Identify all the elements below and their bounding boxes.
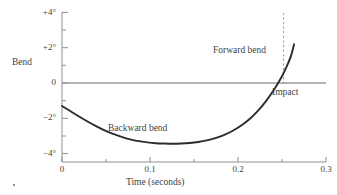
bend-curve [62, 44, 294, 144]
x-axis-ticks [62, 157, 326, 162]
y-tick-label-zero: 0 [22, 78, 56, 87]
annotation-forward-bend: Forward bend [213, 46, 266, 56]
annotation-backward-bend: Backward bend [108, 124, 167, 134]
x-tick-label-0: 0 [47, 165, 77, 174]
x-tick-label-0-3: 0.3 [311, 165, 337, 174]
y-axis-title: Bend [12, 58, 32, 68]
y-tick-label-plus-4: +4° [22, 8, 56, 17]
x-tick-label-0-1: 0.1 [135, 165, 165, 174]
annotation-impact: Impact [272, 88, 298, 98]
y-tick-label-plus-2: +2° [22, 43, 56, 52]
bend-vs-time-chart: +4° +2° 0 −2° −4° 0 0.1 0.2 0.3 Bend Tim… [0, 0, 337, 195]
x-axis-title: Time (seconds) [126, 178, 185, 188]
y-tick-label-minus-2: −2° [22, 113, 56, 122]
y-tick-label-minus-4: −4° [22, 149, 56, 158]
stray-dot-artifact [13, 184, 15, 186]
x-tick-label-0-2: 0.2 [223, 165, 253, 174]
